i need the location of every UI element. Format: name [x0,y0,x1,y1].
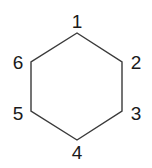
hexagon-outline-path [31,33,122,140]
hexagon-figure: 1 2 3 4 5 6 [0,0,152,168]
ring-position-label-6: 6 [8,53,28,73]
ring-position-label-4: 4 [67,143,87,163]
ring-position-label-1: 1 [67,12,87,32]
ring-position-label-5: 5 [8,104,28,124]
ring-position-label-3: 3 [126,104,146,124]
ring-position-label-2: 2 [126,53,146,73]
